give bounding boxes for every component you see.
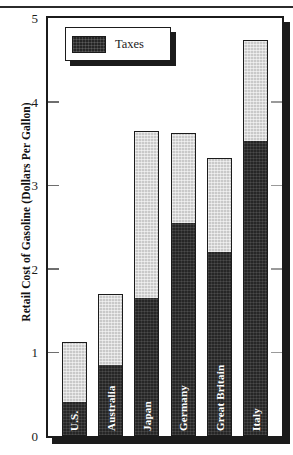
bar-germany[interactable]: Germany bbox=[171, 133, 196, 436]
bar-category-label: Japan bbox=[141, 401, 153, 431]
y-axis-title: Retail Cost of Gasoline (Dollars Per Gal… bbox=[20, 82, 32, 342]
bar-segment-base-cost bbox=[172, 134, 195, 224]
legend-swatch-taxes-icon bbox=[72, 36, 106, 53]
chart-legend: Taxes bbox=[65, 27, 171, 61]
y-tick-label: 0 bbox=[32, 430, 39, 443]
bar-u-s[interactable]: U.S. bbox=[62, 342, 87, 436]
y-tick-label: 2 bbox=[32, 262, 39, 275]
bar-category-label: Great Britain bbox=[214, 365, 226, 431]
bar-category-label: Italy bbox=[250, 408, 262, 431]
bar-segment-taxes: Germany bbox=[172, 223, 195, 435]
bar-segment-base-cost bbox=[135, 132, 158, 298]
bar-category-label: U.S. bbox=[68, 411, 80, 431]
y-tick-label: 3 bbox=[32, 179, 39, 192]
bar-segment-taxes: Italy bbox=[244, 141, 267, 435]
bar-segment-taxes: Great Britain bbox=[208, 252, 231, 435]
y-tick-label: 5 bbox=[32, 12, 39, 25]
bar-category-label: Germany bbox=[177, 385, 189, 431]
bar-australia[interactable]: Australia bbox=[98, 294, 123, 436]
bar-segment-base-cost bbox=[208, 159, 231, 252]
y-tick-label: 1 bbox=[32, 346, 39, 359]
bar-segment-taxes: Australia bbox=[99, 365, 122, 435]
bar-segment-taxes: U.S. bbox=[63, 402, 86, 435]
y-tick-label: 4 bbox=[32, 95, 39, 108]
legend-label-taxes: Taxes bbox=[115, 37, 144, 52]
bar-segment-base-cost bbox=[99, 295, 122, 365]
gasoline-cost-chart: Retail Cost of Gasoline (Dollars Per Gal… bbox=[0, 0, 293, 455]
header-rule bbox=[0, 6, 293, 8]
bar-segment-base-cost bbox=[244, 41, 267, 142]
bar-segment-taxes: Japan bbox=[135, 298, 158, 435]
bar-category-label: Australia bbox=[105, 385, 117, 431]
bar-segment-base-cost bbox=[63, 343, 86, 402]
bar-italy[interactable]: Italy bbox=[243, 40, 268, 436]
bar-great-britain[interactable]: Great Britain bbox=[207, 158, 232, 436]
bar-group: U.S.AustraliaJapanGermanyGreat BritainIt… bbox=[46, 16, 284, 438]
bar-japan[interactable]: Japan bbox=[134, 131, 159, 436]
